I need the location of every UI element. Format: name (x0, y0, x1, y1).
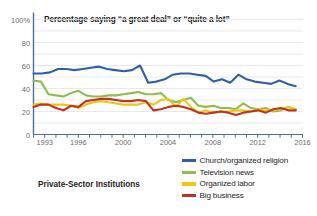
chart-caption: Private-Sector Institutions (38, 180, 140, 189)
chart-container: Percentage saying “a great deal” or “qui… (0, 0, 317, 216)
legend-item[interactable]: Church/organized religion (182, 155, 317, 167)
legend-color-swatch (182, 194, 196, 197)
legend-color-swatch (182, 171, 196, 174)
chart-legend: Church/organized religionTelevision news… (182, 155, 317, 201)
legend-label: Organized labor (200, 179, 255, 188)
legend-label: Big business (200, 191, 244, 200)
legend-item[interactable]: Big business (182, 190, 317, 202)
legend-label: Television news (200, 168, 254, 177)
legend-item[interactable]: Television news (182, 167, 317, 179)
legend-color-swatch (182, 159, 196, 162)
series-line (34, 66, 296, 87)
legend-color-swatch (182, 182, 196, 185)
series-line (34, 99, 296, 115)
legend-item[interactable]: Organized labor (182, 178, 317, 190)
series-lines (34, 66, 296, 115)
legend-label: Church/organized religion (200, 156, 288, 165)
